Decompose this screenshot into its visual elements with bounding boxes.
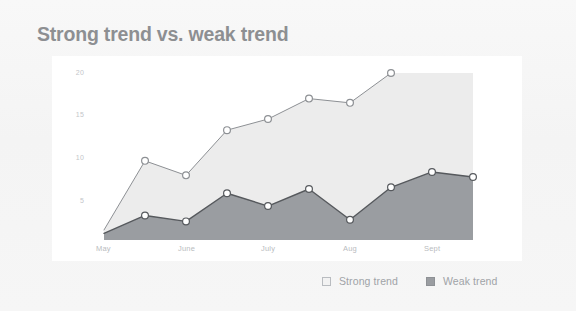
y-tick-5: 5 — [66, 197, 84, 204]
data-point-marker — [470, 174, 477, 181]
data-point-marker — [388, 70, 395, 77]
y-tick-15: 15 — [66, 111, 84, 118]
data-point-marker — [224, 127, 231, 134]
chart-legend: Strong trend Weak trend — [322, 275, 498, 287]
data-point-marker — [306, 95, 313, 102]
data-point-marker — [388, 184, 395, 191]
data-point-marker — [183, 172, 190, 179]
x-tick-july: July — [261, 244, 275, 253]
area-chart — [52, 58, 506, 240]
data-point-marker — [265, 116, 272, 123]
data-point-marker — [265, 203, 272, 210]
legend-swatch-icon-weak — [426, 277, 435, 286]
data-point-marker — [429, 169, 436, 176]
legend-item-strong-trend[interactable]: Strong trend — [322, 275, 398, 287]
legend-label-weak: Weak trend — [443, 275, 498, 287]
legend-label-strong: Strong trend — [339, 275, 398, 287]
data-point-marker — [347, 99, 354, 106]
data-point-marker — [306, 186, 313, 193]
page-title: Strong trend vs. weak trend — [37, 23, 288, 46]
plot-area — [52, 58, 506, 240]
legend-swatch-icon-strong — [322, 277, 331, 286]
data-point-marker — [347, 216, 354, 223]
data-point-marker — [183, 218, 190, 225]
y-tick-10: 10 — [66, 154, 84, 161]
x-tick-aug: Aug — [343, 244, 357, 253]
y-tick-20: 20 — [66, 69, 84, 76]
x-tick-sept: Sept — [424, 244, 440, 253]
legend-item-weak-trend[interactable]: Weak trend — [426, 275, 498, 287]
data-point-marker — [224, 190, 231, 197]
x-tick-may: May — [96, 244, 111, 253]
x-tick-june: June — [178, 244, 195, 253]
data-point-marker — [142, 157, 149, 164]
data-point-marker — [142, 212, 149, 219]
